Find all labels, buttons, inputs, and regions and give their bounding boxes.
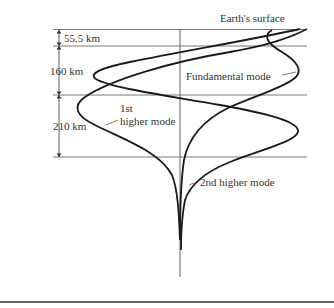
layer-label-210km: 210 km [53, 120, 87, 132]
first-higher-mode-curve [77, 29, 307, 240]
first-higher-mode-label-line2: higher mode [120, 115, 175, 127]
mode-shape-diagram: 55.5 km 160 km 210 km Earth's surface Fu… [0, 0, 334, 308]
fundamental-mode-label: Fundamental mode [186, 70, 271, 82]
earth-surface-label: Earth's surface [220, 12, 285, 24]
layer-label-160km: 160 km [50, 65, 84, 77]
first-higher-leader [106, 120, 118, 125]
fundamental-mode-curve [180, 30, 299, 240]
first-higher-mode-label-line1: 1st [120, 102, 133, 114]
fundamental-leader [282, 72, 296, 75]
layer-label-55km: 55.5 km [64, 32, 101, 44]
second-higher-mode-label: 2nd higher mode [200, 176, 275, 188]
dimension-arrows [57, 30, 62, 157]
